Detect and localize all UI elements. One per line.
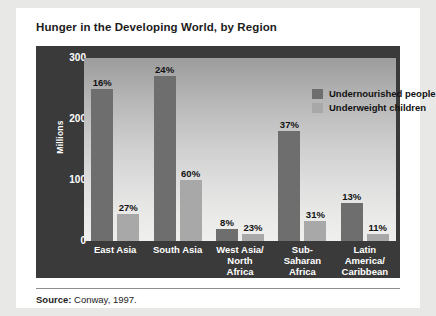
bar-data-label: 37% bbox=[272, 119, 306, 130]
bar-group: 13%11% bbox=[334, 58, 396, 241]
bar-data-label: 23% bbox=[236, 222, 270, 233]
bar bbox=[304, 221, 326, 241]
y-axis-tick-200: 200 bbox=[44, 113, 86, 124]
x-axis-label-line: East Asia bbox=[84, 244, 146, 255]
bar bbox=[367, 234, 389, 241]
bar bbox=[180, 180, 202, 241]
legend-label-underweight: Underweight children bbox=[329, 102, 426, 113]
footer-divider bbox=[36, 288, 400, 289]
bar-group: 16%27% bbox=[84, 58, 146, 241]
y-axis-tick-300: 300 bbox=[44, 52, 86, 63]
bar bbox=[341, 203, 363, 241]
x-axis-label-line: Saharan bbox=[271, 255, 333, 266]
bar-data-label: 60% bbox=[174, 168, 208, 179]
bar bbox=[117, 214, 139, 241]
x-axis-label-line: Africa bbox=[209, 266, 271, 277]
plot-area: 16%27%24%60%8%23%37%31%13%11% Undernouri… bbox=[84, 58, 396, 241]
source-label: Source: bbox=[36, 294, 71, 305]
bar-group: 8%23% bbox=[209, 58, 271, 241]
y-axis-tick-100: 100 bbox=[44, 174, 86, 185]
legend-swatch-icon-undernourished bbox=[312, 89, 323, 99]
legend-label-undernourished: Undernourished people bbox=[329, 88, 436, 99]
y-axis-tick-0: 0 bbox=[44, 235, 86, 246]
x-axis-labels: East AsiaSouth AsiaWest Asia/NorthAfrica… bbox=[84, 244, 396, 284]
bar bbox=[91, 89, 113, 242]
x-axis-label-line: America/ bbox=[334, 255, 396, 266]
legend-item-undernourished: Undernourished people bbox=[312, 88, 436, 99]
bar-group: 24%60% bbox=[146, 58, 208, 241]
x-axis-label-line: Caribbean bbox=[334, 266, 396, 277]
source-note: Source: Conway, 1997. bbox=[36, 294, 137, 305]
bar bbox=[154, 76, 176, 241]
x-axis-label-line: Africa bbox=[271, 266, 333, 277]
bar-data-label: 27% bbox=[111, 202, 145, 213]
bar-data-label: 13% bbox=[335, 191, 369, 202]
source-text: Conway, 1997. bbox=[74, 294, 137, 305]
bar-data-label: 11% bbox=[361, 222, 395, 233]
x-axis-label: South Asia bbox=[146, 244, 208, 255]
x-axis-label: East Asia bbox=[84, 244, 146, 255]
x-axis-label: Sub-SaharanAfrica bbox=[271, 244, 333, 277]
x-axis-label-line: North bbox=[209, 255, 271, 266]
bar-group: 37%31% bbox=[271, 58, 333, 241]
x-axis-label: LatinAmerica/Caribbean bbox=[334, 244, 396, 277]
page-background-edge bbox=[0, 0, 16, 316]
chart-legend: Undernourished people Underweight childr… bbox=[312, 88, 436, 116]
bar bbox=[278, 131, 300, 241]
bar-data-label: 24% bbox=[148, 64, 182, 75]
x-axis-label: West Asia/NorthAfrica bbox=[209, 244, 271, 277]
x-axis-label-line: Sub- bbox=[271, 244, 333, 255]
legend-item-underweight: Underweight children bbox=[312, 102, 436, 113]
page-title: Hunger in the Developing World, by Regio… bbox=[36, 21, 277, 33]
legend-swatch-icon-underweight bbox=[312, 103, 323, 113]
bars-layer: 16%27%24%60%8%23%37%31%13%11% bbox=[84, 58, 396, 241]
chart-card: Hunger in the Developing World, by Regio… bbox=[16, 8, 420, 308]
chart-frame: Millions 0100200300 16%27%24%60%8%23%37%… bbox=[36, 46, 400, 278]
bar bbox=[242, 234, 264, 241]
x-axis-label-line: Latin bbox=[334, 244, 396, 255]
bar-data-label: 31% bbox=[298, 209, 332, 220]
x-axis-label-line: South Asia bbox=[146, 244, 208, 255]
bar-data-label: 16% bbox=[85, 77, 119, 88]
bar bbox=[216, 229, 238, 241]
x-axis-label-line: West Asia/ bbox=[209, 244, 271, 255]
